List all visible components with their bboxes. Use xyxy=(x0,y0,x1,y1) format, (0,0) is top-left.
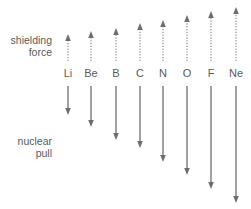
arrow-up-icon xyxy=(233,7,239,14)
element-label-ne: Ne xyxy=(224,67,248,79)
arrow-down-icon xyxy=(88,120,94,127)
arrow-up-icon xyxy=(160,20,166,27)
element-label-li: Li xyxy=(56,67,80,79)
arrow-down-icon xyxy=(160,155,166,162)
arrow-up-icon xyxy=(208,11,214,18)
arrow-up-icon xyxy=(65,34,71,41)
element-arrows-ne xyxy=(233,7,239,203)
arrow-up-icon xyxy=(113,28,119,35)
element-label-c: C xyxy=(128,67,152,79)
arrow-down-icon xyxy=(137,141,143,148)
arrow-down-icon xyxy=(113,133,119,140)
element-arrows-be xyxy=(88,31,94,127)
element-arrows-f xyxy=(208,11,214,189)
arrow-down-icon xyxy=(208,182,214,189)
element-label-n: N xyxy=(151,67,175,79)
arrow-down-icon xyxy=(233,196,239,203)
arrow-up-icon xyxy=(137,23,143,30)
element-arrows-n xyxy=(160,20,166,162)
element-label-b: B xyxy=(104,67,128,79)
arrow-up-icon xyxy=(184,15,190,22)
element-arrows-o xyxy=(184,15,190,175)
arrow-down-icon xyxy=(184,168,190,175)
element-arrows-b xyxy=(113,28,119,140)
shielding-vs-pull-diagram xyxy=(0,0,251,209)
element-label-o: O xyxy=(175,67,199,79)
element-arrows-c xyxy=(137,23,143,148)
element-label-f: F xyxy=(199,67,223,79)
element-label-be: Be xyxy=(79,67,103,79)
arrow-up-icon xyxy=(88,31,94,38)
arrow-down-icon xyxy=(65,108,71,115)
